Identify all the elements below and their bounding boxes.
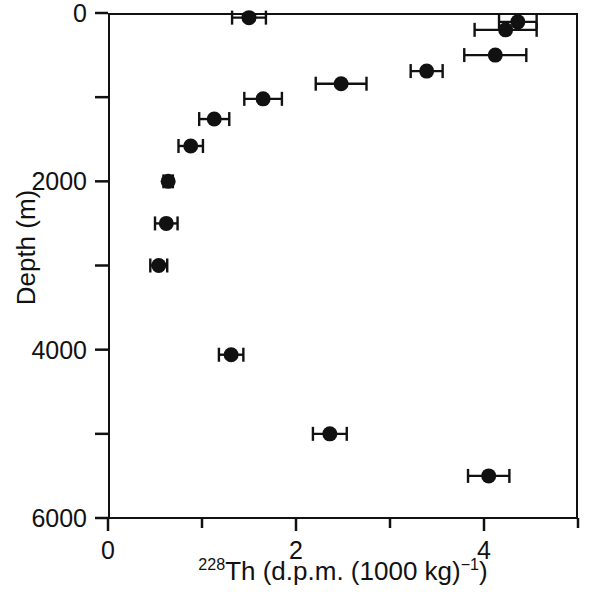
- marker-circle: [334, 76, 349, 91]
- data-point: [313, 426, 347, 441]
- data-point: [475, 22, 537, 37]
- data-point: [161, 174, 176, 189]
- marker-circle: [161, 174, 176, 189]
- data-point: [155, 216, 178, 231]
- data-point: [411, 64, 443, 79]
- marker-circle: [151, 258, 166, 273]
- figure-container: 0200040006000 024 Depth (m) 228Th (d.p.m…: [0, 0, 594, 592]
- marker-circle: [322, 426, 337, 441]
- marker-circle: [159, 216, 174, 231]
- marker-circle: [242, 10, 257, 25]
- x-axis-title-exponent: −1: [461, 555, 479, 573]
- x-axis-title-element: Th: [225, 556, 255, 586]
- x-axis-title-isotope: 228: [198, 555, 225, 573]
- x-axis-title-unit-close: ): [479, 556, 488, 586]
- data-point: [199, 112, 229, 127]
- marker-circle: [419, 64, 434, 79]
- data-point: [316, 76, 367, 91]
- data-point: [179, 138, 203, 153]
- data-point: [244, 91, 282, 106]
- plot-svg: [0, 0, 594, 592]
- marker-circle: [256, 91, 271, 106]
- data-point: [150, 258, 167, 273]
- marker-circle: [488, 48, 503, 63]
- x-axis-title: 228Th (d.p.m. (1000 kg)−1): [108, 556, 578, 587]
- data-point: [232, 10, 266, 25]
- x-axis-title-unit-open: (d.p.m. (1000 kg): [255, 556, 460, 586]
- y-tick-label: 4000: [0, 335, 87, 364]
- data-points-layer: [150, 10, 536, 483]
- y-axis-ticks: [95, 13, 108, 518]
- marker-circle: [224, 347, 239, 362]
- data-point: [219, 347, 243, 362]
- marker-circle: [207, 112, 222, 127]
- marker-circle: [183, 138, 198, 153]
- marker-circle: [498, 22, 513, 37]
- y-axis-title: Depth (m): [11, 158, 42, 338]
- y-tick-label: 6000: [0, 504, 87, 533]
- data-point: [464, 48, 526, 63]
- data-point: [468, 468, 509, 483]
- marker-circle: [481, 468, 496, 483]
- x-axis-ticks: [108, 518, 578, 531]
- y-tick-label: 0: [0, 0, 87, 28]
